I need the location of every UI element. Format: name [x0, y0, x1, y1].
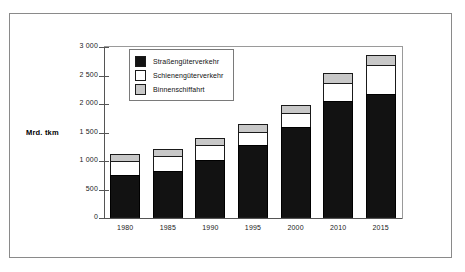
x-axis-tick-label: 2000 [276, 224, 316, 231]
bar-segment-inland[interactable] [110, 154, 140, 161]
bar-segment-inland[interactable] [195, 138, 225, 145]
legend-swatch-inland-icon [135, 84, 146, 95]
y-axis-tick-label: 2 000 [58, 99, 98, 106]
bar-group[interactable] [323, 73, 353, 218]
legend-item[interactable]: Schienengüterverkehr [135, 68, 228, 82]
bar-segment-road[interactable] [281, 127, 311, 218]
legend-item[interactable]: Binnenschiffahrt [135, 82, 228, 96]
bar-segment-inland[interactable] [366, 55, 396, 65]
bar-segment-rail[interactable] [110, 161, 140, 175]
y-axis-tick-label: 2 500 [58, 71, 98, 78]
bar-segment-road[interactable] [110, 175, 140, 218]
bar-segment-rail[interactable] [281, 113, 311, 127]
legend-label: Straßengüterverkehr [153, 58, 219, 65]
chart-legend: StraßengüterverkehrSchienengüterverkehrB… [129, 49, 234, 101]
bar-segment-road[interactable] [153, 171, 183, 218]
bar-segment-road[interactable] [238, 145, 268, 218]
bar-segment-inland[interactable] [153, 149, 183, 156]
y-axis-title: Mrd. tkm [26, 128, 59, 137]
bar-segment-rail[interactable] [238, 132, 268, 145]
legend-label: Schienengüterverkehr [153, 72, 224, 79]
legend-item[interactable]: Straßengüterverkehr [135, 54, 228, 68]
bar-group[interactable] [281, 105, 311, 218]
legend-label: Binnenschiffahrt [153, 86, 205, 93]
bar-segment-road[interactable] [195, 160, 225, 218]
plot-right-border [402, 46, 403, 219]
y-axis-tick-label: 1 000 [58, 156, 98, 163]
bar-segment-rail[interactable] [195, 145, 225, 159]
y-axis-tick-label: 3 000 [58, 42, 98, 49]
bar-group[interactable] [153, 149, 183, 218]
bar-segment-rail[interactable] [153, 156, 183, 171]
y-axis-tick-labels: 3 0002 5002 0001 5001 0005000 [58, 0, 98, 272]
bar-group[interactable] [195, 138, 225, 218]
y-axis-tick-label: 0 [58, 213, 98, 220]
bar-segment-road[interactable] [366, 94, 396, 218]
legend-swatch-road-icon [135, 56, 146, 67]
bar-segment-road[interactable] [323, 101, 353, 218]
x-axis-tick-label: 1990 [190, 224, 230, 231]
bar-segment-inland[interactable] [323, 73, 353, 83]
x-axis-line [104, 218, 403, 219]
x-axis-tick-label: 1995 [233, 224, 273, 231]
bar-group[interactable] [366, 55, 396, 218]
bar-segment-rail[interactable] [366, 65, 396, 94]
bar-group[interactable] [110, 154, 140, 218]
bar-segment-inland[interactable] [281, 105, 311, 113]
y-axis-tick-label: 500 [58, 185, 98, 192]
bar-segment-inland[interactable] [238, 124, 268, 132]
bar-group[interactable] [238, 124, 268, 218]
x-axis-tick-label: 2015 [361, 224, 401, 231]
x-axis-tick-label: 1985 [148, 224, 188, 231]
bar-segment-rail[interactable] [323, 83, 353, 101]
legend-swatch-rail-icon [135, 70, 146, 81]
y-axis-tick-label: 1 500 [58, 128, 98, 135]
chart-figure: Mrd. tkm 3 0002 5002 0001 5001 0005000 1… [0, 0, 465, 272]
y-axis-tick [99, 218, 109, 219]
x-axis-tick-label: 2010 [318, 224, 358, 231]
x-axis-tick-label: 1980 [105, 224, 145, 231]
